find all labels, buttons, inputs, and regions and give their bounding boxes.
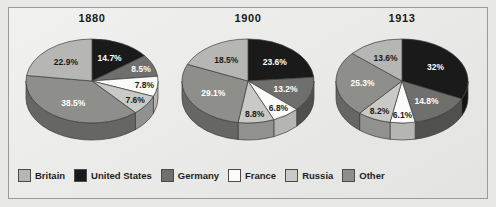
pie-slice-label: 14.8% — [414, 96, 439, 106]
pie-slice-label: 14.7% — [98, 53, 123, 63]
legend-swatch-icon — [228, 169, 241, 182]
legend-item-russia[interactable]: Russia — [285, 169, 333, 182]
chart-title-1913: 1913 — [322, 12, 482, 24]
legend-item-label: Russia — [302, 170, 333, 181]
legend-item-germany[interactable]: Germany — [161, 169, 219, 182]
pie-slice-label: 22.9% — [54, 57, 79, 67]
legend-swatch-icon — [18, 169, 31, 182]
pie-svg: 32%14.8%6.1%8.2%25.3%13.6% — [328, 29, 476, 147]
pie-slice-label: 18.5% — [214, 55, 239, 65]
pie-slice-label: 23.6% — [263, 57, 288, 67]
legend-item-label: France — [245, 170, 276, 181]
legend-item-label: Britain — [35, 170, 65, 181]
chart-title-1880: 1880 — [12, 12, 172, 24]
pie-slice-label: 13.2% — [273, 84, 298, 94]
legend-swatch-icon — [74, 169, 87, 182]
legend-item-france[interactable]: France — [228, 169, 276, 182]
pie-slice-label: 13.6% — [374, 53, 399, 63]
pie-slice-label: 8.5% — [131, 64, 151, 74]
pie-slice-label: 29.1% — [201, 88, 226, 98]
pie-slice-side — [390, 122, 415, 140]
pie-chart-1900: 1900 23.6%13.2%6.8%8.8%29.1%18.5% — [168, 12, 328, 152]
legend-item-united-states[interactable]: United States — [74, 169, 152, 182]
pie-canvas-1913: 32%14.8%6.1%8.2%25.3%13.6% — [328, 29, 476, 147]
pie-slice-label: 32% — [427, 62, 444, 72]
legend-item-label: Other — [359, 170, 384, 181]
legend-item-britain[interactable]: Britain — [18, 169, 65, 182]
pie-slice-label: 6.1% — [393, 110, 413, 120]
pie-slice-label: 7.6% — [125, 95, 145, 105]
legend: BritainUnited StatesGermanyFranceRussiaO… — [18, 160, 478, 190]
pie-canvas-1900: 23.6%13.2%6.8%8.8%29.1%18.5% — [174, 29, 322, 147]
pie-svg: 23.6%13.2%6.8%8.8%29.1%18.5% — [174, 29, 322, 147]
pie-slice-label: 38.5% — [61, 98, 86, 108]
figure-panel: 1880 14.7%8.5%7.8%7.6%38.5%22.9% 1900 23… — [0, 0, 496, 207]
pie-slice-label: 8.2% — [370, 106, 390, 116]
pie-chart-1880: 1880 14.7%8.5%7.8%7.6%38.5%22.9% — [12, 12, 172, 152]
legend-swatch-icon — [285, 169, 298, 182]
pie-slice-label: 25.3% — [350, 78, 375, 88]
pie-svg: 14.7%8.5%7.8%7.6%38.5%22.9% — [18, 29, 166, 147]
pie-slice-label: 6.8% — [269, 103, 289, 113]
legend-swatch-icon — [342, 169, 355, 182]
pie-canvas-1880: 14.7%8.5%7.8%7.6%38.5%22.9% — [18, 29, 166, 147]
pie-slice-label: 7.8% — [135, 80, 155, 90]
chart-title-1900: 1900 — [168, 12, 328, 24]
legend-item-label: United States — [91, 170, 152, 181]
legend-swatch-icon — [161, 169, 174, 182]
legend-item-other[interactable]: Other — [342, 169, 384, 182]
pie-slice-label: 8.8% — [245, 109, 265, 119]
pie-chart-1913: 1913 32%14.8%6.1%8.2%25.3%13.6% — [322, 12, 482, 152]
legend-item-label: Germany — [178, 170, 219, 181]
